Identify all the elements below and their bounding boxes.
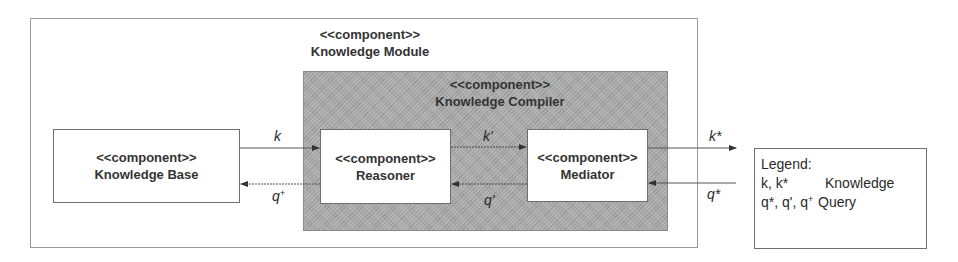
reasoner-component: <<component>> Reasoner — [320, 129, 451, 204]
arrow-label-k: k — [274, 128, 281, 144]
arrow-label-k-prime: k' — [483, 128, 493, 144]
legend-key-knowledge: k, k* — [761, 174, 825, 193]
knowledge-compiler-name: Knowledge Compiler — [400, 93, 600, 110]
arrow-label-k-star: k* — [709, 128, 721, 144]
reasoner-name: Reasoner — [356, 167, 415, 184]
knowledge-compiler-title: <<component>> Knowledge Compiler — [400, 76, 600, 110]
mediator-stereotype: <<component>> — [537, 149, 637, 166]
legend-title: Legend: — [761, 155, 926, 174]
mediator-component: <<component>> Mediator — [527, 129, 648, 202]
arrow-label-q-prime: q' — [484, 192, 494, 208]
legend-key-query-sup: + — [808, 194, 813, 204]
knowledge-module-stereotype: <<component>> — [280, 26, 460, 43]
arrow-label-q-star: q* — [707, 186, 720, 202]
legend-row-knowledge: k, k* Knowledge — [761, 174, 926, 193]
legend-value-knowledge: Knowledge — [825, 174, 894, 193]
knowledge-module-title: <<component>> Knowledge Module — [280, 26, 460, 60]
legend-value-query: Query — [818, 193, 856, 212]
legend-box: Legend: k, k* Knowledge q*, q', q+ Query — [754, 148, 927, 249]
knowledge-base-component: <<component>> Knowledge Base — [53, 129, 240, 203]
mediator-name: Mediator — [560, 166, 614, 183]
legend-row-query: q*, q', q+ Query — [761, 193, 926, 212]
arrow-label-q-plus: q+ — [272, 188, 285, 204]
knowledge-base-stereotype: <<component>> — [96, 149, 196, 166]
legend-key-query-base: q*, q', q — [761, 194, 808, 210]
knowledge-base-name: Knowledge Base — [94, 166, 198, 183]
arrow-label-q-plus-base: q — [272, 188, 280, 204]
legend-key-query: q*, q', q+ — [761, 193, 818, 212]
knowledge-compiler-stereotype: <<component>> — [400, 76, 600, 93]
arrow-label-q-plus-sup: + — [280, 188, 285, 198]
reasoner-stereotype: <<component>> — [335, 150, 435, 167]
knowledge-module-name: Knowledge Module — [280, 43, 460, 60]
